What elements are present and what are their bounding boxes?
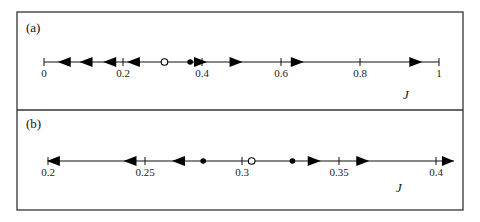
- stable-fixed-point-icon: [134, 59, 140, 65]
- flow-arrow-right-icon: [194, 57, 207, 67]
- panel-a: (a)00.20.40.60.81J: [26, 20, 442, 102]
- axis-variable-label: J: [403, 87, 410, 102]
- tick-label: 0: [41, 67, 47, 79]
- panels: (a)00.20.40.60.81J(b)0.20.250.30.350.4J: [26, 20, 454, 195]
- panel-label: (b): [26, 116, 41, 131]
- axis-variable-label: J: [396, 180, 403, 195]
- tick-label: 0.6: [274, 67, 288, 79]
- tick-label: 0.4: [195, 67, 209, 79]
- unstable-fixed-point-icon: [161, 59, 168, 66]
- tick-label: 0.8: [353, 67, 367, 79]
- tick-label: 0.35: [329, 166, 349, 178]
- tick-label: 0.3: [235, 166, 249, 178]
- flow-arrow-left-icon: [103, 57, 116, 67]
- flow-diagram: (a)00.20.40.60.81J(b)0.20.250.30.350.4J: [0, 0, 480, 222]
- flow-arrow-right-icon: [356, 156, 369, 166]
- stable-fixed-point-icon: [187, 59, 193, 65]
- tick-label: 0.25: [135, 166, 155, 178]
- flow-arrow-left-icon: [123, 156, 136, 166]
- tick-label: 0.4: [429, 166, 443, 178]
- stable-fixed-point-icon: [290, 158, 296, 164]
- tick-label: 0.2: [41, 166, 55, 178]
- flow-arrow-left-icon: [47, 156, 60, 166]
- tick-label: 0.2: [116, 67, 130, 79]
- flow-arrow-left-icon: [172, 156, 185, 166]
- flow-arrow-left-icon: [79, 57, 92, 67]
- flow-arrow-right-icon: [230, 57, 243, 67]
- flow-arrow-right-icon: [291, 57, 304, 67]
- panel-label: (a): [26, 20, 40, 35]
- tick-label: 1: [436, 67, 442, 79]
- panel-b: (b)0.20.250.30.350.4J: [26, 116, 454, 195]
- unstable-fixed-point-icon: [248, 158, 255, 165]
- flow-arrow-right-icon: [308, 156, 321, 166]
- flow-arrow-left-icon: [58, 57, 71, 67]
- stable-fixed-point-icon: [200, 158, 206, 164]
- axis-end-arrow-icon: [442, 156, 454, 166]
- flow-arrow-right-icon: [409, 57, 422, 67]
